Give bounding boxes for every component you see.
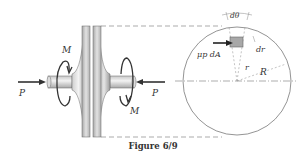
left-moment-label: M bbox=[61, 45, 72, 55]
dr-label: dr bbox=[256, 45, 266, 54]
right-hub bbox=[100, 40, 110, 124]
left-plate bbox=[82, 26, 90, 137]
R-label: R bbox=[259, 67, 267, 77]
friction-label: μp dA bbox=[197, 50, 221, 59]
right-shaft bbox=[110, 76, 134, 88]
dr-tick bbox=[253, 36, 255, 42]
dtheta-label: dθ bbox=[230, 11, 240, 20]
area-element bbox=[230, 37, 243, 47]
left-force-label: P bbox=[18, 88, 26, 98]
right-moment-label: M bbox=[129, 106, 140, 116]
r-label: r bbox=[245, 63, 250, 72]
figure-caption: Figure 6/9 bbox=[128, 141, 177, 151]
right-force-arrow-icon bbox=[136, 79, 165, 85]
left-hub bbox=[72, 40, 83, 124]
right-force-label: P bbox=[151, 88, 159, 98]
left-force-arrow-icon bbox=[18, 79, 46, 85]
left-shaft bbox=[48, 76, 72, 88]
disk-clutch-figure: P P M M dθ μp dA dr r R bbox=[0, 0, 307, 155]
radial-lines bbox=[229, 27, 286, 81]
right-plate bbox=[93, 26, 101, 137]
